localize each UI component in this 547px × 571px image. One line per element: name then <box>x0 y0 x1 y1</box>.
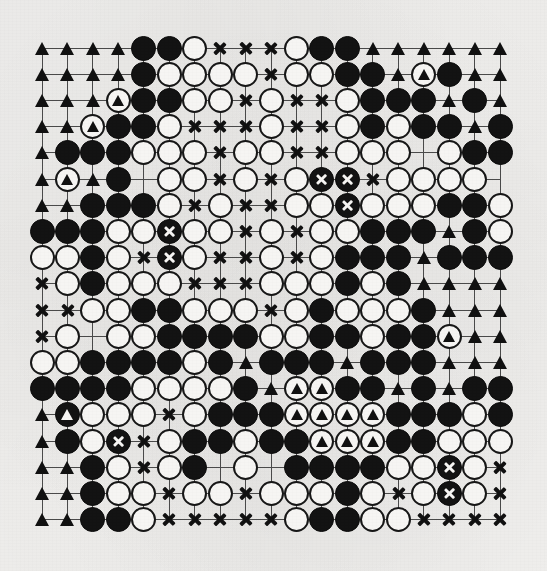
black-stone[interactable] <box>411 114 436 139</box>
white-stone[interactable] <box>309 376 334 401</box>
white-stone[interactable] <box>462 402 487 427</box>
white-stone[interactable] <box>411 167 436 192</box>
white-stone[interactable] <box>309 402 334 427</box>
white-stone-point[interactable] <box>258 114 284 140</box>
white-stone-point[interactable] <box>309 61 335 87</box>
white-stone[interactable] <box>259 219 284 244</box>
white-stone[interactable] <box>360 402 385 427</box>
white-stone-point[interactable] <box>105 402 131 428</box>
white-stone-point[interactable] <box>182 480 208 506</box>
marked-white-stone-point[interactable] <box>360 428 386 454</box>
black-stone[interactable] <box>335 507 360 532</box>
black-territory-point[interactable] <box>436 376 462 402</box>
white-stone-point[interactable] <box>360 297 386 323</box>
black-stone[interactable] <box>157 88 182 113</box>
black-stone[interactable] <box>386 271 411 296</box>
black-stone[interactable] <box>360 62 385 87</box>
white-stone[interactable] <box>284 402 309 427</box>
black-stone[interactable] <box>488 402 513 427</box>
marked-black-stone-point[interactable] <box>54 402 80 428</box>
white-stone[interactable] <box>386 140 411 165</box>
white-stone-point[interactable] <box>360 507 386 533</box>
white-stone[interactable] <box>182 88 207 113</box>
white-territory-point[interactable] <box>233 271 259 297</box>
black-stone-point[interactable] <box>233 376 259 402</box>
black-territory-point[interactable] <box>105 35 131 61</box>
white-stone-point[interactable] <box>360 480 386 506</box>
black-stone[interactable] <box>462 219 487 244</box>
black-stone-point[interactable] <box>309 323 335 349</box>
white-stone-point[interactable] <box>360 271 386 297</box>
black-stone-point[interactable] <box>462 245 488 271</box>
black-stone-point[interactable] <box>29 376 55 402</box>
black-stone-point[interactable] <box>105 349 131 375</box>
marked-white-stone-point[interactable] <box>334 428 360 454</box>
black-territory-point[interactable] <box>334 349 360 375</box>
dead-black-stone-point[interactable] <box>156 218 182 244</box>
black-stone[interactable] <box>80 140 105 165</box>
black-stone-point[interactable] <box>411 218 437 244</box>
black-stone-point[interactable] <box>80 271 106 297</box>
white-stone-point[interactable] <box>156 454 182 480</box>
white-stone[interactable] <box>131 324 156 349</box>
black-stone[interactable] <box>360 245 385 270</box>
white-stone-point[interactable] <box>436 428 462 454</box>
black-stone[interactable] <box>488 114 513 139</box>
white-stone-point[interactable] <box>436 166 462 192</box>
black-stone[interactable] <box>437 62 462 87</box>
white-territory-point[interactable] <box>131 428 157 454</box>
white-territory-point[interactable] <box>156 507 182 533</box>
black-stone-point[interactable] <box>411 297 437 323</box>
black-stone[interactable] <box>309 455 334 480</box>
black-stone[interactable] <box>360 455 385 480</box>
white-stone-point[interactable] <box>131 376 157 402</box>
black-stone-point[interactable] <box>334 454 360 480</box>
marked-white-stone-point[interactable] <box>284 376 310 402</box>
black-territory-point[interactable] <box>29 35 55 61</box>
black-territory-point[interactable] <box>29 192 55 218</box>
black-stone[interactable] <box>462 376 487 401</box>
black-stone[interactable] <box>411 350 436 375</box>
white-stone-point[interactable] <box>284 192 310 218</box>
black-stone[interactable] <box>488 140 513 165</box>
black-stone-point[interactable] <box>360 376 386 402</box>
white-stone[interactable] <box>80 298 105 323</box>
black-territory-point[interactable] <box>80 87 106 113</box>
white-stone-point[interactable] <box>309 218 335 244</box>
white-stone[interactable] <box>360 140 385 165</box>
white-stone-point[interactable] <box>385 140 411 166</box>
black-stone[interactable] <box>157 245 182 270</box>
white-stone[interactable] <box>259 324 284 349</box>
white-stone-point[interactable] <box>284 166 310 192</box>
white-territory-point[interactable] <box>182 271 208 297</box>
marked-white-stone-point[interactable] <box>360 402 386 428</box>
black-stone-point[interactable] <box>360 218 386 244</box>
black-stone[interactable] <box>80 245 105 270</box>
white-stone[interactable] <box>30 245 55 270</box>
white-territory-point[interactable] <box>29 297 55 323</box>
black-stone[interactable] <box>411 429 436 454</box>
white-stone[interactable] <box>360 298 385 323</box>
white-stone-point[interactable] <box>105 297 131 323</box>
black-territory-point[interactable] <box>54 192 80 218</box>
black-territory-point[interactable] <box>54 35 80 61</box>
black-stone[interactable] <box>182 429 207 454</box>
black-stone[interactable] <box>131 114 156 139</box>
white-stone-point[interactable] <box>182 402 208 428</box>
black-stone[interactable] <box>55 140 80 165</box>
black-stone-point[interactable] <box>131 192 157 218</box>
black-stone[interactable] <box>462 88 487 113</box>
black-stone[interactable] <box>80 481 105 506</box>
white-stone-point[interactable] <box>233 61 259 87</box>
black-stone-point[interactable] <box>258 428 284 454</box>
white-stone[interactable] <box>284 481 309 506</box>
white-territory-point[interactable] <box>156 480 182 506</box>
black-stone[interactable] <box>335 271 360 296</box>
white-stone[interactable] <box>437 324 462 349</box>
white-territory-point[interactable] <box>54 297 80 323</box>
black-stone[interactable] <box>309 167 334 192</box>
white-stone[interactable] <box>233 140 258 165</box>
black-territory-point[interactable] <box>462 271 488 297</box>
white-stone[interactable] <box>106 245 131 270</box>
black-territory-point[interactable] <box>487 271 513 297</box>
